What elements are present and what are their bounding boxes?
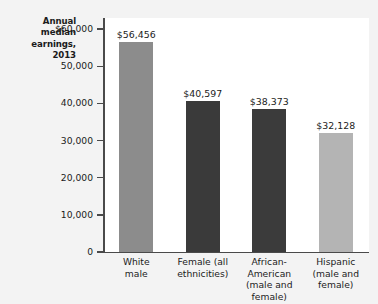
y-tick-label: $60,000 [0,24,93,34]
x-category-label-line: ethnicities) [170,268,237,280]
y-tick-label: 30,000 [0,136,93,146]
x-category-label-2: Female (allethnicities) [170,256,237,279]
y-tick-label: 0 [0,247,93,257]
x-category-label-line: (male and [236,279,303,291]
bar-chart-figure: Annual median earnings, 2013 010,00020,0… [0,0,378,304]
x-category-label-1: Whitemale [103,256,170,279]
bar-value-label-3: $38,373 [229,96,309,107]
bar-3[interactable] [252,109,286,252]
x-category-label-line: Hispanic [303,256,370,268]
x-category-label-line: African- [236,256,303,268]
x-category-label-line: female) [236,291,303,303]
x-category-label-line: American [236,268,303,280]
y-axis-caption-line-3: earnings, [0,39,76,50]
bar-value-label-4: $32,128 [296,120,376,131]
x-category-label-3: African-American(male andfemale) [236,256,303,302]
x-axis-category-labels: WhitemaleFemale (allethnicities)African-… [103,256,369,304]
bar-value-label-1: $56,456 [96,29,176,40]
bars-layer [103,18,369,252]
bar-1[interactable] [119,42,153,252]
x-category-label-4: Hispanic(male andfemale) [303,256,370,291]
x-category-label-line: male [103,268,170,280]
bar-2[interactable] [186,101,220,252]
x-category-label-line: White [103,256,170,268]
y-tick-label: 20,000 [0,173,93,183]
bar-4[interactable] [319,133,353,252]
y-tick-label: 40,000 [0,98,93,108]
x-category-label-line: female) [303,279,370,291]
x-category-label-line: (male and [303,268,370,280]
y-tick-label: 50,000 [0,61,93,71]
y-tick-label: 10,000 [0,210,93,220]
x-category-label-line: Female (all [170,256,237,268]
